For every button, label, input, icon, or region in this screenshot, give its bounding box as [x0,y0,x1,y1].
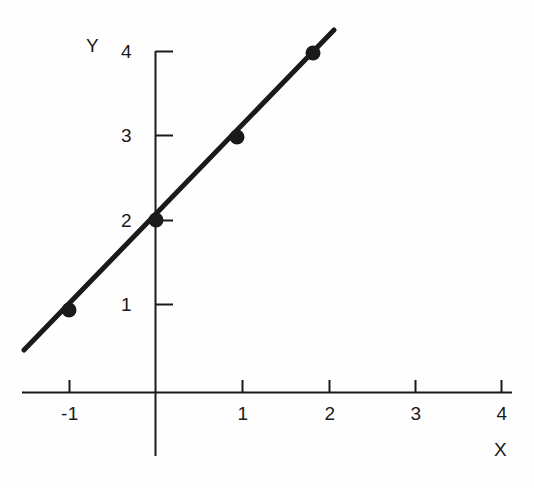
x-tick-label-3: 3 [400,404,432,423]
x-tick-label-1: 1 [227,404,259,423]
x-tick-label--1: -1 [54,404,86,423]
data-point--1-1 [62,303,77,318]
data-point-0-2 [149,213,164,228]
x-tick-label-4: 4 [486,404,518,423]
y-axis-ticks [156,52,174,305]
x-tick-label-2: 2 [314,404,346,423]
y-tick-label-4: 4 [110,42,132,61]
x-axis-ticks [70,380,502,393]
data-line-y-equals-x-plus-2 [24,30,334,350]
y-tick-label-1: 1 [110,295,132,314]
y-tick-label-2: 2 [110,211,132,230]
chart-figure: Y X 4 3 2 1 -1 1 2 3 4 [0,0,534,488]
x-axis-title: X [494,440,507,459]
y-tick-label-3: 3 [110,126,132,145]
y-axis-title: Y [86,36,99,55]
data-point-1-3 [230,130,245,145]
data-point-185-4 [306,46,321,61]
